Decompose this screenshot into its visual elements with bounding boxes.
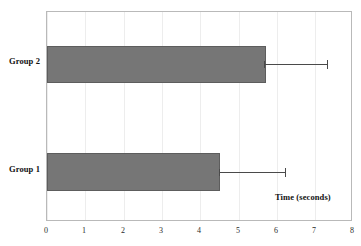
category-label-group-2: Group 2 <box>0 56 40 66</box>
x-tick-label-2: 2 <box>113 226 133 235</box>
error-bar-cap-group-2 <box>327 60 328 69</box>
gridline-6 <box>277 12 278 220</box>
gridline-5 <box>239 12 240 220</box>
bar-chart: Time (seconds) Group 2 Group 1 0 1 2 3 4… <box>0 0 361 246</box>
error-bar-line-group-1 <box>219 172 286 173</box>
error-bar-origin-cap-group-2 <box>264 61 265 68</box>
category-label-group-1: Group 1 <box>0 164 40 174</box>
x-tick-label-3: 3 <box>151 226 171 235</box>
gridline-7 <box>315 12 316 220</box>
bar-group-1 <box>47 153 220 191</box>
x-tick-label-6: 6 <box>266 226 286 235</box>
error-bar-origin-cap-group-1 <box>219 169 220 176</box>
error-bar-line-group-2 <box>264 64 328 65</box>
error-bar-cap-group-1 <box>285 168 286 177</box>
plot-area: Time (seconds) <box>46 11 352 221</box>
x-tick-label-7: 7 <box>304 226 324 235</box>
x-tick-label-5: 5 <box>228 226 248 235</box>
x-tick-label-4: 4 <box>189 226 209 235</box>
x-tick-label-1: 1 <box>74 226 94 235</box>
x-tick-label-0: 0 <box>36 226 56 235</box>
x-axis-title: Time (seconds) <box>275 192 331 202</box>
x-tick-label-8: 8 <box>342 226 361 235</box>
bar-group-2 <box>47 46 266 83</box>
